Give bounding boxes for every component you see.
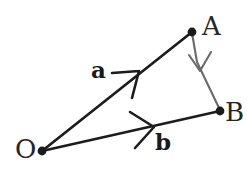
segment-ab-line (192, 33, 220, 110)
vector-diagram-figure: O A B a b (0, 0, 247, 178)
point-label-B: B (225, 99, 244, 125)
point-dot-A (188, 28, 197, 37)
point-dot-O (38, 147, 47, 156)
point-label-O: O (15, 136, 36, 162)
vector-label-b: b (155, 130, 171, 153)
point-dot-B (216, 107, 225, 116)
vector-label-a: a (91, 58, 106, 81)
point-label-A: A (202, 13, 221, 39)
